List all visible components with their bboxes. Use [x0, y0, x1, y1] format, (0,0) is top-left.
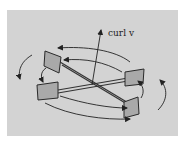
paddle-wheel-diagram: curl v [0, 0, 186, 150]
paddle-front-left [37, 82, 58, 100]
curl-label: curl v [108, 28, 135, 38]
paddle-back-right [125, 69, 144, 86]
